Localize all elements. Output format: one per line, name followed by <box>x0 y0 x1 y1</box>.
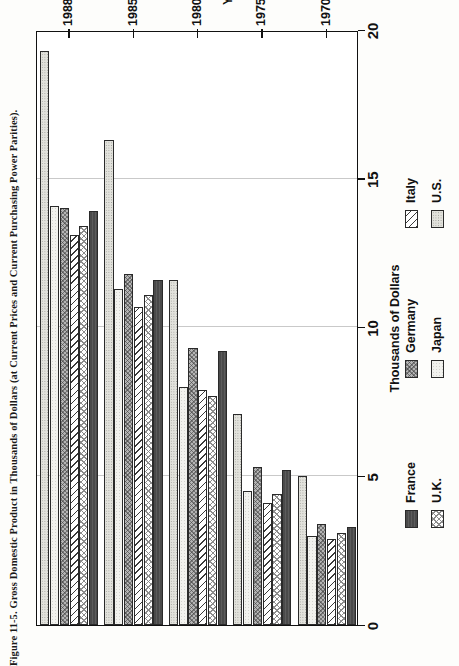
bar-us-1988 <box>40 51 49 625</box>
bar-japan-1970 <box>307 536 316 625</box>
bar-uk-1975 <box>272 494 281 625</box>
legend-label: Italy <box>404 178 418 203</box>
figure-caption: Figure 11-5. Gross Domestic Product in T… <box>8 26 19 666</box>
bar-italy-1988 <box>70 235 79 625</box>
legend-label: Japan <box>430 317 444 353</box>
bar-uk-1985 <box>144 295 153 625</box>
bar-japan-1985 <box>114 289 123 625</box>
legend-swatch-icon <box>431 360 444 378</box>
legend-item-uk: U.K. <box>430 478 444 528</box>
bar-france-1988 <box>89 211 98 625</box>
figure-page: Figure 11-5. Gross Domestic Product in T… <box>0 0 459 666</box>
bar-france-1985 <box>153 280 162 625</box>
bar-italy-1970 <box>327 539 336 625</box>
value-tick-label: 15 <box>364 171 381 188</box>
category-tick-mark <box>68 29 69 38</box>
bar-germany-1970 <box>317 524 326 625</box>
rotated-figure: Figure 11-5. Gross Domestic Product in T… <box>0 0 459 666</box>
category-tick-label: 1980 <box>190 0 204 26</box>
value-tick-label: 0 <box>364 622 381 630</box>
bar-group <box>37 32 101 625</box>
value-axis-title: Thousands of Dollars <box>388 31 402 626</box>
legend-item-germany: Germany <box>404 299 418 378</box>
bar-group <box>295 32 359 625</box>
bar-germany-1988 <box>60 209 69 626</box>
bar-uk-1988 <box>79 226 88 625</box>
legend-label: U.S. <box>430 179 444 203</box>
legend-label: Germany <box>404 299 418 353</box>
legend-item-france: France <box>404 462 418 528</box>
legend-item-italy: Italy <box>404 178 418 228</box>
bar-italy-1985 <box>134 307 143 625</box>
category-tick-label: 1988 <box>61 0 75 26</box>
bar-uk-1970 <box>337 533 346 625</box>
bar-us-1985 <box>104 140 113 625</box>
bar-uk-1980 <box>208 396 217 625</box>
category-tick-mark <box>326 29 327 38</box>
bar-us-1980 <box>169 280 178 625</box>
category-tick-mark <box>261 29 262 38</box>
value-tick-label: 5 <box>364 473 381 481</box>
legend-label: France <box>404 462 418 503</box>
category-tick-mark <box>133 29 134 38</box>
legend: FranceU.K.GermanyJapanItalyU.S. <box>404 26 456 626</box>
category-tick-label: 1970 <box>319 0 333 26</box>
bar-group <box>166 32 230 625</box>
bar-us-1970 <box>298 476 307 625</box>
legend-swatch-icon <box>405 210 418 228</box>
legend-swatch-icon <box>405 360 418 378</box>
category-tick-label: 1975 <box>254 0 268 26</box>
bar-group <box>230 32 294 625</box>
category-tick-label: 1985 <box>126 0 140 26</box>
bar-us-1975 <box>233 414 242 625</box>
bar-germany-1975 <box>253 467 262 625</box>
bar-germany-1985 <box>124 274 133 625</box>
category-tick-mark <box>197 29 198 38</box>
bar-italy-1975 <box>263 503 272 625</box>
bar-germany-1980 <box>188 348 197 625</box>
legend-swatch-icon <box>431 510 444 528</box>
value-tick-label: 20 <box>364 23 381 40</box>
bar-group <box>101 32 165 625</box>
legend-swatch-icon <box>431 210 444 228</box>
bar-france-1980 <box>218 351 227 625</box>
legend-swatch-icon <box>405 510 418 528</box>
bar-japan-1975 <box>243 491 252 625</box>
legend-label: U.K. <box>430 478 444 503</box>
bar-france-1970 <box>347 527 356 625</box>
value-tick-label: 10 <box>364 320 381 337</box>
category-axis-title: Year <box>221 0 235 5</box>
legend-item-us: U.S. <box>430 179 444 228</box>
bar-italy-1980 <box>198 390 207 625</box>
legend-item-japan: Japan <box>430 317 444 378</box>
plot-area <box>36 31 358 626</box>
bar-france-1975 <box>282 470 291 625</box>
bar-japan-1988 <box>50 206 59 625</box>
bar-japan-1980 <box>179 387 188 625</box>
